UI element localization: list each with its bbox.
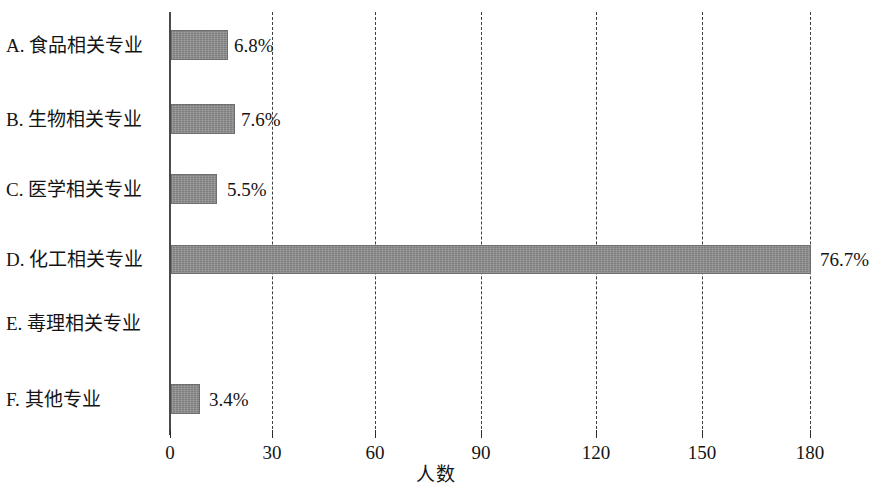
bar-chart: A. 食品相关专业 6.8% B. 生物相关专业 7.6% C. 医学相关专业 … [0, 0, 871, 489]
gridline-150 [702, 12, 703, 434]
bar-a [171, 30, 228, 60]
gridline-90 [481, 12, 482, 434]
category-label-e: E. 毒理相关专业 [6, 312, 164, 336]
tick-mark-150 [702, 430, 703, 438]
bar-b [171, 104, 235, 134]
tick-label-150: 150 [667, 441, 737, 465]
gridline-180 [810, 12, 811, 434]
category-label-a: A. 食品相关专业 [6, 34, 164, 58]
category-label-b: B. 生物相关专业 [6, 108, 164, 132]
tick-mark-30 [272, 430, 273, 438]
tick-label-30: 30 [237, 441, 307, 465]
tick-label-90: 90 [446, 441, 516, 465]
gridline-120 [596, 12, 597, 434]
category-label-d: D. 化工相关专业 [6, 248, 164, 272]
gridline-60 [375, 12, 376, 434]
bar-value-d: 76.7% [820, 248, 869, 272]
bar-c [171, 174, 217, 204]
y-axis-line [169, 12, 171, 435]
x-axis-title: 人数 [0, 464, 871, 486]
tick-label-120: 120 [561, 441, 631, 465]
gridline-30 [272, 12, 273, 434]
tick-label-180: 180 [775, 441, 845, 465]
bar-value-b: 7.6% [241, 108, 281, 132]
tick-mark-0 [170, 430, 171, 438]
tick-mark-180 [810, 430, 811, 438]
category-label-c: C. 医学相关专业 [6, 178, 164, 202]
bar-f [171, 384, 200, 414]
bar-value-f: 3.4% [209, 388, 249, 412]
tick-mark-90 [481, 430, 482, 438]
category-label-f: F. 其他专业 [6, 388, 164, 412]
tick-label-0: 0 [135, 441, 205, 465]
bar-d [171, 245, 811, 274]
tick-mark-60 [375, 430, 376, 438]
bar-value-c: 5.5% [227, 178, 267, 202]
tick-label-60: 60 [340, 441, 410, 465]
tick-mark-120 [596, 430, 597, 438]
bar-value-a: 6.8% [234, 34, 274, 58]
